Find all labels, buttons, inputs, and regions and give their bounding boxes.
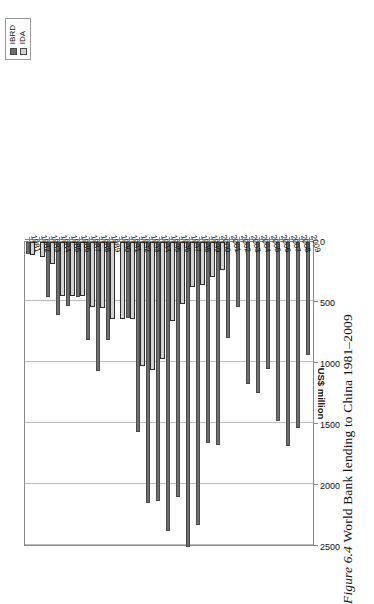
bar-group-1987 — [85, 242, 95, 545]
value-axis-title: US$ million — [316, 241, 327, 546]
bar-ida-1992 — [140, 242, 145, 366]
bar-group-1986 — [75, 242, 85, 545]
bar-group-2005 — [265, 242, 275, 545]
bar-group-1990 — [115, 242, 125, 545]
bar-group-1999 — [205, 242, 215, 545]
bar-group-1989 — [105, 242, 115, 545]
figure-caption-text: World Bank lending to China 1981–2009 — [340, 314, 355, 542]
bar-group-1988 — [95, 242, 105, 545]
legend-key-ibrd-icon — [10, 48, 17, 55]
bar-ibrd-2001 — [226, 242, 231, 338]
bar-ibrd-1997 — [186, 242, 191, 547]
bar-group-2006 — [275, 242, 285, 545]
figure-page: IBRD IDA 05001000150020002500 US$ millio… — [0, 0, 374, 604]
bar-group-1997 — [185, 242, 195, 545]
bar-ibrd-2005 — [266, 242, 271, 369]
bar-ida-1995 — [170, 242, 175, 321]
legend-label-ibrd: IBRD — [9, 25, 17, 44]
bar-ibrd-2003 — [246, 242, 251, 384]
bar-ibrd-2000 — [216, 242, 221, 445]
category-axis: 1981198219831984198519861987198819891990… — [24, 195, 314, 241]
bar-group-2008 — [295, 242, 305, 545]
figure-caption: Figure 6.4 World Bank lending to China 1… — [340, 0, 356, 604]
bar-group-1995 — [165, 242, 175, 545]
bar-group-1992 — [135, 242, 145, 545]
bar-ida-1991 — [130, 242, 135, 319]
bar-series-container — [25, 242, 313, 545]
bar-group-1982 — [35, 242, 45, 545]
bar-ibrd-2006 — [276, 242, 281, 421]
bar-group-2004 — [255, 242, 265, 545]
bar-ibrd-2004 — [256, 242, 261, 393]
bar-group-1984 — [55, 242, 65, 545]
bar-group-1998 — [195, 242, 205, 545]
bar-group-2000 — [215, 242, 225, 545]
rotated-figure-canvas: IBRD IDA 05001000150020002500 US$ millio… — [0, 0, 374, 604]
chart-legend: IBRD IDA — [5, 18, 31, 60]
bar-group-1985 — [65, 242, 75, 545]
bar-group-2002 — [235, 242, 245, 545]
bar-ida-1994 — [160, 242, 165, 359]
bar-group-1996 — [175, 242, 185, 545]
bar-group-1991 — [125, 242, 135, 545]
bar-group-2001 — [225, 242, 235, 545]
legend-item-ida: IDA — [19, 25, 27, 55]
bar-group-1993 — [145, 242, 155, 545]
bar-group-2007 — [285, 242, 295, 545]
bar-ibrd-2008 — [296, 242, 301, 428]
bar-ibrd-2007 — [286, 242, 291, 446]
figure-number: Figure 6.4 — [340, 546, 355, 604]
bar-group-1981 — [25, 242, 35, 545]
bar-group-2003 — [245, 242, 255, 545]
bar-ida-1990 — [120, 242, 125, 319]
bar-group-1983 — [45, 242, 55, 545]
legend-item-ibrd: IBRD — [9, 25, 17, 55]
plot-area — [24, 241, 314, 546]
legend-key-ida-icon — [20, 48, 27, 55]
bar-ida-1993 — [150, 242, 155, 370]
bar-group-1994 — [155, 242, 165, 545]
legend-label-ida: IDA — [19, 31, 27, 44]
bar-ibrd-2009 — [306, 242, 311, 355]
